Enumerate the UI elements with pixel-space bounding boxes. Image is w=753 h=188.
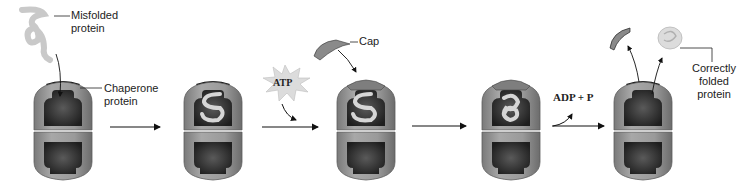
released-cap: [610, 28, 630, 50]
chaperone-stage-5: [614, 81, 672, 180]
cap-label: Cap: [359, 35, 379, 48]
misfolded-line1: Misfolded: [71, 9, 118, 22]
chaperone-line2: protein: [104, 95, 158, 108]
chaperone-stage-2: [184, 81, 242, 180]
cap-shape: [314, 40, 350, 60]
chaperone-stage-3: [337, 80, 395, 180]
correctly-folded-label: Correctly folded protein: [686, 62, 742, 101]
chaperone-protein-label: Chaperone protein: [104, 82, 158, 108]
correctly-folded-protein-shape: [658, 27, 682, 49]
misfolded-line2: protein: [71, 22, 118, 35]
misfolded-protein-shape: [22, 10, 50, 61]
correct-line1: Correctly: [686, 62, 742, 75]
chaperone-stage-4: [482, 80, 540, 180]
correct-line3: protein: [686, 88, 742, 101]
chaperone-line1: Chaperone: [104, 82, 158, 95]
atp-label: ATP: [273, 77, 292, 88]
correct-line2: folded: [686, 75, 742, 88]
chaperone-stage-1: [34, 81, 92, 180]
misfolded-protein-label: Misfolded protein: [71, 9, 118, 35]
adp-p-label: ADP + P: [553, 91, 594, 103]
